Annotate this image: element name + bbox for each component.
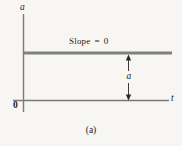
magnitude-label: a (125, 71, 133, 83)
slope-annotation: Slope = 0 (69, 37, 108, 46)
slope-annotation-value: 0 (104, 36, 109, 46)
figure-container: a t 0 Slope = 0 a (a) (0, 0, 182, 146)
y-axis-label: a (20, 3, 25, 13)
figure-caption: (a) (0, 126, 182, 136)
x-axis-label: t (171, 94, 174, 104)
slope-annotation-equals: = (93, 36, 101, 46)
slope-annotation-word: Slope (69, 36, 91, 46)
origin-label: 0 (13, 101, 18, 111)
